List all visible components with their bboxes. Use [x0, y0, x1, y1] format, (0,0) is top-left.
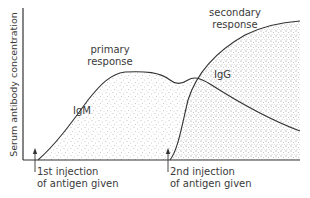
- secondary-response-label: secondary response: [200, 7, 270, 31]
- primary-response-label: primary response: [80, 44, 140, 68]
- first-injection-line2: of antigen given: [37, 178, 119, 190]
- first-injection-label: 1st injection of antigen given: [37, 166, 119, 190]
- primary-label-line2: response: [80, 56, 140, 68]
- first-injection-line1: 1st injection: [37, 166, 119, 178]
- second-injection-line2: of antigen given: [170, 178, 252, 190]
- primary-label-line1: primary: [80, 44, 140, 56]
- second-injection-line1: 2nd injection: [170, 166, 252, 178]
- primary-response-fill: [38, 72, 200, 160]
- secondary-label-line2: response: [200, 19, 270, 31]
- y-axis-label: Serum antibody concentration: [8, 10, 19, 160]
- secondary-label-line1: secondary: [200, 7, 270, 19]
- igm-label: IgM: [73, 105, 91, 117]
- second-injection-label: 2nd injection of antigen given: [170, 166, 252, 190]
- igg-label: IgG: [214, 69, 231, 81]
